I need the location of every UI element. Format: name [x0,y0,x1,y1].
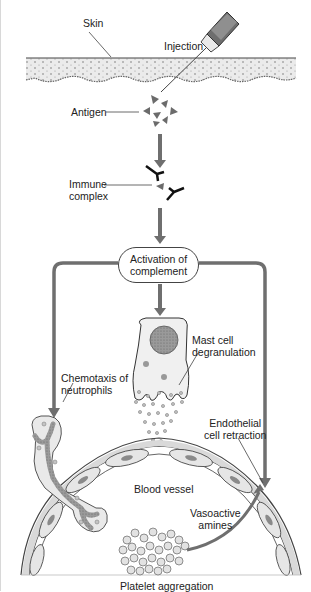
blood-vessel-label: Blood vessel [134,483,194,495]
antigen-label: Antigen [71,106,107,118]
skin-label: Skin [83,17,103,29]
endothelial-retraction-label: Endothelial cell retraction [204,417,266,441]
antigen-icon [143,95,178,127]
immune-complex-label: Immune complex [69,178,108,202]
activation-of-complement-box: Activation of complement [118,247,199,283]
injection-label: Injection [164,40,203,52]
skin-layer [26,32,296,82]
immune-complex-icon [146,166,184,200]
mast-cell-degranulation-label: Mast cell degranulation [192,334,256,358]
chemotaxis-label: Chemotaxis of neutrophils [61,372,128,396]
platelet-aggregation-label: Platelet aggregation [120,580,213,592]
diagram-graphics [1,0,311,591]
blood-vessel [21,438,301,577]
platelet-aggregation-icon [119,528,189,575]
vasoactive-amines-label: Vasoactive amines [190,507,241,531]
mast-cell-icon [133,318,189,443]
